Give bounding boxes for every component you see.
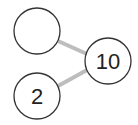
number-bond-diagram: 2 10 [0, 0, 138, 125]
part-value-bottom: 2 [31, 84, 43, 109]
part-circle-top[interactable] [14, 8, 60, 54]
connector-bottom [58, 70, 87, 86]
whole-value: 10 [96, 49, 120, 74]
connector-top [58, 41, 87, 54]
